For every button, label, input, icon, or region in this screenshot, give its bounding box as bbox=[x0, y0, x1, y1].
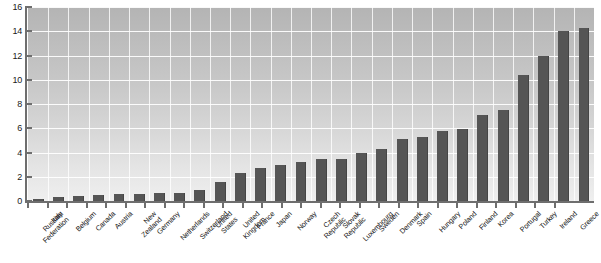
bar bbox=[154, 193, 165, 201]
y-axis-tick-label: 12 bbox=[12, 51, 22, 60]
bar-slot bbox=[210, 7, 230, 201]
bar-slot bbox=[554, 7, 574, 201]
bar bbox=[275, 165, 286, 201]
bar bbox=[356, 153, 367, 202]
y-axis-tick-label: 4 bbox=[17, 148, 22, 157]
bar-slot bbox=[129, 7, 149, 201]
x-axis-category-labels: RussianFederationItalyBelgiumCanadaAustr… bbox=[28, 208, 594, 263]
plot-area bbox=[28, 7, 594, 201]
y-axis-tick-mark bbox=[27, 6, 32, 8]
bar bbox=[498, 110, 509, 201]
x-axis-label-slot: UnitedKingdom bbox=[230, 208, 250, 263]
bar bbox=[255, 168, 266, 201]
bar-slot bbox=[230, 7, 250, 201]
bar bbox=[437, 131, 448, 201]
x-axis-label: Spain bbox=[416, 210, 435, 229]
bar-slot bbox=[352, 7, 372, 201]
x-axis-label-slot: Japan bbox=[271, 208, 291, 263]
bar bbox=[477, 115, 488, 201]
bar bbox=[336, 159, 347, 201]
x-axis-label-slot: Netherlands bbox=[170, 208, 190, 263]
bar bbox=[518, 75, 529, 201]
x-axis-label-slot: Canada bbox=[89, 208, 109, 263]
bar-slot bbox=[533, 7, 553, 201]
bar bbox=[558, 31, 569, 201]
y-axis-tick-mark bbox=[27, 79, 32, 81]
x-axis-label-slot: Austria bbox=[109, 208, 129, 263]
bar-slot bbox=[473, 7, 493, 201]
bar-slot bbox=[493, 7, 513, 201]
bar bbox=[397, 139, 408, 201]
bars-container bbox=[28, 7, 594, 201]
bar-slot bbox=[68, 7, 88, 201]
x-axis-label-slot: CzechRepublic bbox=[311, 208, 331, 263]
y-axis-tick-label: 8 bbox=[17, 100, 22, 109]
x-axis-label-slot: Poland bbox=[453, 208, 473, 263]
y-axis-tick-label: 6 bbox=[17, 124, 22, 133]
y-axis-tick-label: 16 bbox=[12, 3, 22, 12]
y-axis-tick-mark bbox=[27, 55, 32, 57]
x-axis-label-slot: Denmark bbox=[392, 208, 412, 263]
x-axis-label-slot: NewZealand bbox=[129, 208, 149, 263]
x-axis-label-slot: Finland bbox=[473, 208, 493, 263]
bar bbox=[174, 193, 185, 201]
bar-slot bbox=[372, 7, 392, 201]
y-axis-tick-mark bbox=[27, 200, 32, 202]
x-axis-label-slot: Turkey bbox=[533, 208, 553, 263]
bar bbox=[114, 194, 125, 201]
x-axis-label-slot: Belgium bbox=[68, 208, 88, 263]
x-axis-label-slot: Hungary bbox=[432, 208, 452, 263]
y-axis-tick-labels: 1614121086420 bbox=[0, 0, 22, 208]
bar bbox=[316, 159, 327, 201]
bar bbox=[538, 56, 549, 202]
bar-slot bbox=[412, 7, 432, 201]
bar bbox=[457, 129, 468, 201]
y-axis-tick-mark bbox=[27, 103, 32, 105]
y-axis-tick-mark bbox=[27, 30, 32, 32]
bar-slot bbox=[331, 7, 351, 201]
bar-slot bbox=[170, 7, 190, 201]
bar bbox=[235, 173, 246, 201]
x-axis-label-slot: Ireland bbox=[554, 208, 574, 263]
bar-slot bbox=[432, 7, 452, 201]
x-axis-label-slot: Korea bbox=[493, 208, 513, 263]
x-axis-label-slot: Switzerland bbox=[190, 208, 210, 263]
x-axis-label: Greece bbox=[579, 210, 601, 232]
y-axis-tick-mark bbox=[27, 127, 32, 129]
bar-slot bbox=[250, 7, 270, 201]
bar-slot bbox=[89, 7, 109, 201]
y-axis-tick-mark bbox=[27, 176, 32, 178]
y-axis-tick-label: 0 bbox=[17, 197, 22, 206]
x-axis-label-slot: Germany bbox=[149, 208, 169, 263]
bar-slot bbox=[271, 7, 291, 201]
bar-slot bbox=[48, 7, 68, 201]
bar-slot bbox=[291, 7, 311, 201]
x-axis-label-slot: SlovakRepublic bbox=[331, 208, 351, 263]
x-axis-label-slot: Norway bbox=[291, 208, 311, 263]
y-axis-tick-label: 14 bbox=[12, 27, 22, 36]
x-axis-label-slot: Spain bbox=[412, 208, 432, 263]
bar bbox=[579, 28, 590, 201]
x-axis-label-slot: Portugal bbox=[513, 208, 533, 263]
x-axis-label-slot: RussianFederation bbox=[28, 208, 48, 263]
bar-slot bbox=[453, 7, 473, 201]
x-axis-label-slot: Luxembourg bbox=[352, 208, 372, 263]
bar bbox=[417, 137, 428, 201]
bar-slot bbox=[513, 7, 533, 201]
y-axis-tick-mark bbox=[27, 152, 32, 154]
bar-slot bbox=[109, 7, 129, 201]
bar-slot bbox=[392, 7, 412, 201]
bar-slot bbox=[311, 7, 331, 201]
x-axis-label-slot: France bbox=[250, 208, 270, 263]
y-axis-tick-label: 10 bbox=[12, 75, 22, 84]
x-axis-label-slot: UnitedStates bbox=[210, 208, 230, 263]
bar bbox=[194, 190, 205, 201]
bar bbox=[376, 149, 387, 201]
x-axis-label-slot: Italy bbox=[48, 208, 68, 263]
bar bbox=[296, 162, 307, 201]
x-axis-label-slot: Greece bbox=[574, 208, 594, 263]
bar-slot bbox=[149, 7, 169, 201]
x-axis-label-slot: Sweden bbox=[372, 208, 392, 263]
bar bbox=[215, 182, 226, 201]
